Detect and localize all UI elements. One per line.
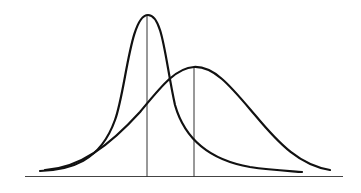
- wide-curve: [45, 67, 330, 170]
- narrow-peaked-curve: [40, 15, 302, 172]
- diagram-canvas: [0, 0, 361, 193]
- distribution-diagram: [0, 0, 361, 193]
